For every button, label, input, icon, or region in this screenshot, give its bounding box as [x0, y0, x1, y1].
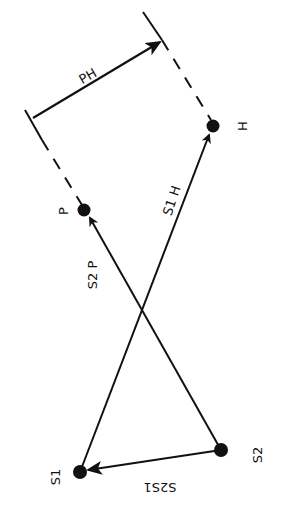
node-p: [78, 204, 91, 217]
node-h: [207, 120, 220, 133]
dashed-line-p: [42, 140, 82, 205]
label-s1: S1: [48, 469, 63, 486]
node-s2: [214, 443, 228, 457]
edge-s2-s1: [88, 450, 221, 470]
ph-arrow: [33, 42, 160, 118]
label-h: H: [235, 121, 250, 131]
label-ph: PH: [76, 65, 99, 87]
label-s2s1: S2S1: [143, 480, 176, 495]
dashed-line-h: [162, 40, 211, 120]
ph-tick-right: [143, 12, 162, 40]
label-s2: S2: [250, 447, 265, 464]
edge-s2-p: [90, 218, 221, 450]
node-s1: [73, 465, 87, 479]
label-p: P: [56, 207, 71, 215]
edge-s1-h: [80, 135, 209, 472]
label-s2p: S2 P: [85, 261, 100, 290]
vector-diagram: S1 S2 P H S2S1 S2 P S1 H PH: [0, 0, 287, 532]
